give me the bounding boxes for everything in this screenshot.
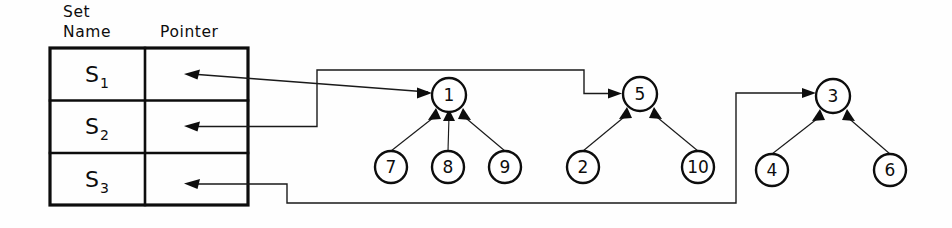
set-name-base-2: S [85,114,99,139]
pointer-s3-line [198,93,810,203]
table-row-2: S 2 [85,114,109,143]
diagram-canvas: Set Name Pointer S 1 S 2 S 3 [0,0,952,228]
tree-s3: 3 4 6 [756,79,906,186]
node-10-label: 10 [687,157,709,177]
node-6-label: 6 [885,160,896,180]
pointer-s1-arrowhead [184,70,200,80]
edge-4-to-3 [772,115,822,154]
pointer-s1-line [198,75,428,93]
node-8-label: 8 [443,157,454,177]
node-5-label: 5 [635,84,646,104]
pointer-s2-to-node5 [184,70,622,132]
node-9-label: 9 [500,157,511,177]
pointer-s2-target-arrowhead [608,89,622,99]
set-name-subscript-3: 3 [100,180,109,196]
edge-8-to-1 [448,116,449,151]
set-name-base-1: S [85,62,99,87]
header-pointer: Pointer [160,23,219,41]
pointer-s3-to-node3 [184,88,816,203]
arrowhead-9-to-1 [458,108,471,120]
pointer-s3-target-arrowhead [802,88,816,98]
table-row-1: S 1 [85,62,109,91]
pointer-s3-arrowhead [184,179,200,189]
header-set-name-line1: Set [63,3,90,21]
node-7-label: 7 [386,157,397,177]
edge-6-to-3 [845,115,890,154]
table-row-3: S 3 [85,167,109,196]
node-4-label: 4 [767,160,778,180]
set-name-base-3: S [85,167,99,192]
pointer-s1-target-arrowhead [417,88,432,99]
pointer-s2-arrowhead [184,122,200,132]
arrowhead-10-to-5 [649,107,662,119]
pointer-s1-to-node1 [184,70,428,93]
header-set-name-line2: Name [63,23,111,41]
set-name-subscript-2: 2 [100,127,109,143]
pointer-s2-line [198,70,615,127]
arrowhead-6-to-3 [842,109,855,121]
table-headers: Set Name Pointer [63,3,219,41]
node-3-label: 3 [828,86,839,106]
tree-s1: 1 7 8 9 [375,78,521,183]
node-2-label: 2 [578,157,589,177]
set-name-subscript-1: 1 [100,75,109,91]
figure-root: Set Name Pointer S 1 S 2 S 3 [0,0,952,228]
node-1-label: 1 [444,85,455,105]
